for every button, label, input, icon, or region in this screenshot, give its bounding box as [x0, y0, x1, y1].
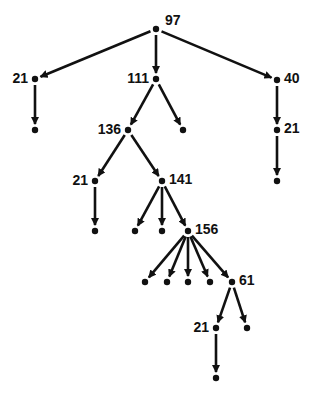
tree-node — [92, 178, 98, 184]
tree-node — [159, 178, 165, 184]
tree-node — [153, 76, 159, 82]
edge-arrow — [131, 135, 158, 176]
node-label: 21 — [12, 71, 28, 85]
leaf-node — [92, 228, 98, 234]
node-label: 21 — [284, 121, 300, 135]
tree-node — [125, 127, 131, 133]
node-label: 21 — [193, 320, 209, 334]
node-label: 61 — [239, 273, 255, 287]
edge-arrow — [234, 288, 245, 323]
tree-node — [274, 77, 280, 83]
leaf-node — [164, 279, 170, 285]
edge-arrow — [192, 236, 228, 278]
leaf-node — [185, 279, 191, 285]
tree-diagram: 97211114013621211411566121 — [0, 0, 319, 397]
node-label: 21 — [72, 173, 88, 187]
tree-node — [185, 228, 191, 234]
tree-node — [153, 26, 159, 32]
leaf-node — [274, 178, 280, 184]
node-label: 156 — [195, 222, 218, 236]
node-label: 97 — [165, 13, 181, 27]
edge-arrow — [138, 186, 159, 225]
tree-node — [229, 279, 235, 285]
leaf-node — [132, 228, 138, 234]
tree-edges-layer — [0, 0, 319, 397]
node-label: 40 — [284, 71, 300, 85]
node-label: 136 — [98, 122, 121, 136]
edge-arrow — [165, 186, 185, 225]
leaf-node — [32, 127, 38, 133]
tree-node — [274, 127, 280, 133]
edge-arrow — [159, 84, 180, 124]
edge-arrow — [131, 84, 153, 124]
edge-arrow — [98, 135, 124, 176]
nodes-group — [32, 26, 280, 381]
leaf-node — [207, 279, 213, 285]
node-label: 111 — [127, 71, 149, 85]
leaf-node — [142, 279, 148, 285]
edge-arrow — [218, 288, 230, 323]
tree-node — [213, 325, 219, 331]
tree-node — [32, 76, 38, 82]
leaf-node — [159, 228, 165, 234]
leaf-node — [244, 325, 250, 331]
leaf-node — [180, 127, 186, 133]
edges-group — [35, 31, 277, 372]
leaf-node — [213, 375, 219, 381]
node-label: 141 — [169, 172, 192, 186]
edge-arrow — [162, 31, 272, 77]
